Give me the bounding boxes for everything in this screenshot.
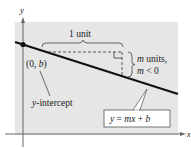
equation-label: y = mx + b [109, 114, 151, 124]
run-label: 1 unit [69, 29, 91, 39]
y-axis-label: y [19, 5, 24, 15]
point-label: (0, b) [26, 59, 47, 70]
x-axis-label: x [186, 130, 191, 139]
x-axis-arrow-icon [180, 132, 186, 136]
rise-label-line2: m < 0 [137, 66, 159, 76]
y-intercept-point [20, 42, 25, 47]
intercept-label: y-intercept [31, 98, 73, 108]
y-axis-arrow-icon [21, 17, 25, 23]
slope-intercept-diagram: y x 1 unit m units, m < 0 (0, b) y-inter… [0, 0, 191, 149]
rise-label-line1: m units, [137, 54, 167, 64]
